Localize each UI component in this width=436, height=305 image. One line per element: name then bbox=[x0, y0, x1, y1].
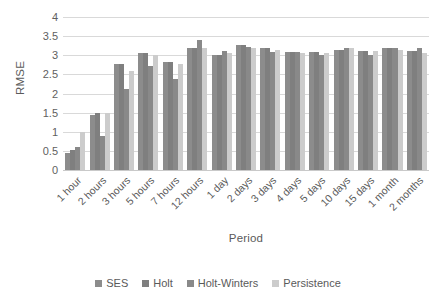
y-axis-title: RMSE bbox=[14, 38, 26, 118]
y-axis-tick-label: 1.5 bbox=[43, 107, 58, 119]
bar bbox=[349, 48, 354, 170]
y-axis-tick-label: 0 bbox=[52, 164, 58, 176]
y-axis-tick-label: 3 bbox=[52, 49, 58, 61]
legend-item[interactable]: Persistence bbox=[272, 277, 340, 289]
legend-swatch-icon bbox=[95, 280, 102, 287]
x-axis-tick-label-cell: 2 months bbox=[405, 171, 429, 223]
x-axis-tick-label-cell: 12 hours bbox=[185, 171, 209, 223]
bar bbox=[275, 50, 280, 170]
legend-item[interactable]: Holt-Winters bbox=[187, 277, 259, 289]
bar-group bbox=[161, 17, 185, 170]
y-axis-tick-label: 3.5 bbox=[43, 30, 58, 42]
bar-group bbox=[185, 17, 209, 170]
bar-group bbox=[307, 17, 331, 170]
legend-item[interactable]: Holt bbox=[142, 277, 173, 289]
bar bbox=[422, 53, 427, 170]
bar bbox=[178, 64, 183, 170]
chart-legend: SESHoltHolt-WintersPersistence bbox=[0, 277, 436, 289]
legend-item[interactable]: SES bbox=[95, 277, 128, 289]
bar-group bbox=[63, 17, 87, 170]
bar bbox=[105, 113, 110, 170]
legend-label: Holt-Winters bbox=[198, 277, 259, 289]
bar-group bbox=[405, 17, 429, 170]
bar-group bbox=[136, 17, 160, 170]
y-axis-tick-label: 2.5 bbox=[43, 68, 58, 80]
bar-groups bbox=[63, 17, 429, 170]
bar bbox=[129, 71, 134, 170]
legend-swatch-icon bbox=[187, 280, 194, 287]
bar-group bbox=[87, 17, 111, 170]
bar-group bbox=[380, 17, 404, 170]
bar-group bbox=[209, 17, 233, 170]
x-axis-title: Period bbox=[63, 232, 429, 244]
legend-swatch-icon bbox=[272, 280, 279, 287]
y-axis-tick-label: 4 bbox=[52, 11, 58, 23]
bar-group bbox=[356, 17, 380, 170]
bar-group bbox=[258, 17, 282, 170]
legend-label: Persistence bbox=[283, 277, 340, 289]
bar-group bbox=[331, 17, 355, 170]
bar bbox=[373, 51, 378, 170]
bar bbox=[324, 53, 329, 170]
bar bbox=[153, 55, 158, 170]
legend-label: Holt bbox=[153, 277, 173, 289]
bar bbox=[227, 53, 232, 170]
x-axis-tick-labels: 1 hour2 hours3 hours5 hours7 hours12 hou… bbox=[63, 171, 429, 223]
bar-group bbox=[234, 17, 258, 170]
bar bbox=[80, 132, 85, 170]
legend-swatch-icon bbox=[142, 280, 149, 287]
bar-group bbox=[112, 17, 136, 170]
legend-label: SES bbox=[106, 277, 128, 289]
bar bbox=[251, 48, 256, 170]
rmse-bar-chart: RMSE 00.511.522.533.54 1 hour2 hours3 ho… bbox=[0, 0, 436, 305]
bar bbox=[398, 50, 403, 170]
y-axis-tick-label: 1 bbox=[52, 126, 58, 138]
y-axis-tick-label: 2 bbox=[52, 88, 58, 100]
bar bbox=[300, 53, 305, 170]
plot-area: 00.511.522.533.54 bbox=[63, 17, 429, 170]
y-axis-tick-label: 0.5 bbox=[43, 145, 58, 157]
bar-group bbox=[283, 17, 307, 170]
bar bbox=[202, 48, 207, 170]
